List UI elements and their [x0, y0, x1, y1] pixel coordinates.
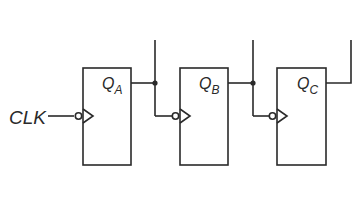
- clock-triangle-c: [277, 109, 287, 123]
- qc-output-wire: [326, 40, 351, 83]
- ripple-counter-diagram: CLK QA QB QC: [0, 0, 358, 198]
- inversion-bubble-c: [269, 113, 275, 119]
- junction-dot-b: [250, 80, 255, 85]
- clk-label: CLK: [9, 107, 47, 128]
- clock-triangle-a: [83, 109, 93, 123]
- inversion-bubble-a: [75, 113, 81, 119]
- qa-label: QA: [102, 75, 122, 97]
- qc-label: QC: [297, 75, 318, 97]
- qb-label: QB: [199, 75, 219, 97]
- inversion-bubble-b: [172, 113, 178, 119]
- clock-triangle-b: [180, 109, 190, 123]
- junction-dot-a: [152, 80, 157, 85]
